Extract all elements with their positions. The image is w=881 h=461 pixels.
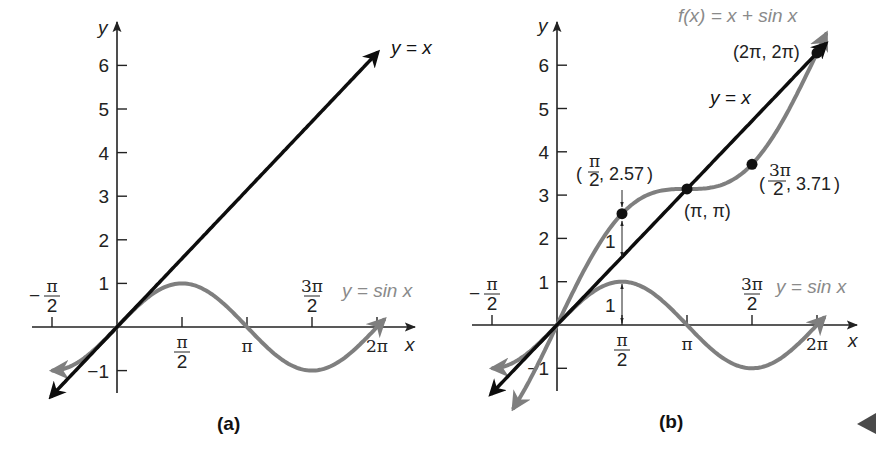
x-tick-label: π xyxy=(241,336,252,356)
x-tick-label: π2− xyxy=(469,274,500,314)
y-tick-label: 4 xyxy=(538,142,549,163)
panel-b-graph: −1123456π2−π2π3π22π 1 1 ( π 2 , 2.57 ) (… xyxy=(469,5,859,432)
svg-text:π: π xyxy=(46,276,57,296)
svg-text:2: 2 xyxy=(487,293,498,314)
x-axis-label: x xyxy=(847,330,859,351)
point-label-2pi: (2π, 2π) xyxy=(733,42,800,62)
sine-curve-label: y = sin x xyxy=(774,276,848,297)
x-tick-label: 2π xyxy=(806,334,828,354)
y-tick-label: 3 xyxy=(98,186,109,207)
data-point xyxy=(682,183,693,194)
x-tick-label: π2 xyxy=(174,332,190,372)
data-point xyxy=(617,208,628,219)
figure-canvas: −1123456π2−π2π3π22π y x y = x y = sin x … xyxy=(0,0,881,461)
distance-label-upper: 1 xyxy=(605,231,616,252)
back-triangle-icon[interactable] xyxy=(857,413,876,434)
svg-text:2: 2 xyxy=(47,295,58,316)
point-label-pi-over-2: ( π 2 , 2.57 ) xyxy=(576,151,653,190)
y-tick-label: 4 xyxy=(98,143,109,164)
distance-label-lower: 1 xyxy=(605,295,616,316)
svg-text:2: 2 xyxy=(617,349,628,370)
svg-text:(: ( xyxy=(576,164,582,184)
svg-text:2: 2 xyxy=(177,351,188,372)
panel-a-ticks: −1123456π2−π2π3π22π xyxy=(29,55,388,381)
svg-text:2: 2 xyxy=(307,295,318,316)
svg-text:π: π xyxy=(616,330,627,350)
svg-text:, 3.71: , 3.71 xyxy=(786,174,831,194)
y-axis-label: y xyxy=(536,15,549,36)
sum-curve-label: f(x) = x + sin x xyxy=(678,5,799,26)
x-tick-label: π2 xyxy=(614,330,630,370)
y-axis-label: y xyxy=(96,17,109,38)
svg-text:(: ( xyxy=(759,174,765,194)
panel-b-axes xyxy=(472,22,857,391)
svg-text:2: 2 xyxy=(589,169,600,190)
svg-text:3π: 3π xyxy=(741,274,763,294)
y-tick-label: 3 xyxy=(538,185,549,206)
panel-a-graph: −1123456π2−π2π3π22π y x y = x y = sin x … xyxy=(29,17,433,434)
svg-text:2: 2 xyxy=(747,293,758,314)
y-tick-label: −1 xyxy=(87,361,109,382)
point-label-pi: (π, π) xyxy=(684,201,731,221)
panel-a-caption: (a) xyxy=(217,413,240,434)
x-tick-label: 3π2 xyxy=(741,274,763,314)
x-tick-label: 3π2 xyxy=(301,276,323,316)
y-tick-label: 6 xyxy=(538,55,549,76)
y-tick-label: 6 xyxy=(98,55,109,76)
sine-curve-label: y = sin x xyxy=(340,280,414,301)
point-label-3pi-over-2: ( 3π 2 , 3.71 ) xyxy=(759,160,840,199)
svg-text:2: 2 xyxy=(773,178,784,199)
svg-text:−: − xyxy=(469,283,480,304)
panel-b-caption: (b) xyxy=(659,411,683,432)
data-point xyxy=(747,159,758,170)
x-tick-label: π xyxy=(681,334,692,354)
data-point xyxy=(812,47,823,58)
x-tick-label: 2π xyxy=(366,336,388,356)
y-tick-label: 1 xyxy=(538,272,549,293)
identity-line-label: y = x xyxy=(708,87,752,108)
panel-b-ticks: −1123456π2−π2π3π22π xyxy=(469,55,828,379)
svg-text:): ) xyxy=(647,164,653,184)
identity-line-label: y = x xyxy=(389,37,433,58)
svg-text:3π: 3π xyxy=(301,276,323,296)
x-tick-label: π2− xyxy=(29,276,60,316)
identity-line xyxy=(491,44,826,395)
y-tick-label: 2 xyxy=(98,230,109,251)
y-tick-label: 1 xyxy=(98,273,109,294)
svg-text:): ) xyxy=(834,174,840,194)
x-axis-label: x xyxy=(404,334,416,355)
y-tick-label: 5 xyxy=(98,99,109,120)
svg-text:, 2.57: , 2.57 xyxy=(599,164,644,184)
panel-a-axes xyxy=(32,22,415,393)
y-tick-label: 5 xyxy=(538,99,549,120)
svg-text:−: − xyxy=(29,285,40,306)
svg-text:π: π xyxy=(486,274,497,294)
y-tick-label: 2 xyxy=(538,228,549,249)
svg-text:π: π xyxy=(176,332,187,352)
